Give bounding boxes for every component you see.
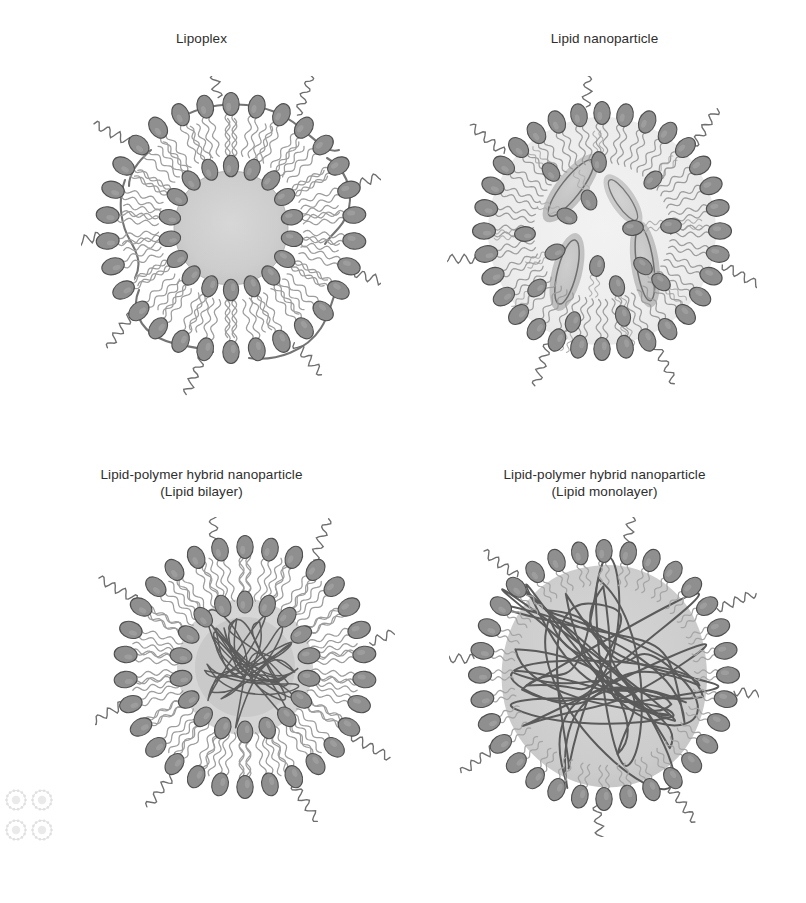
lipid-head [113,645,138,664]
lipid-head [125,131,153,159]
thumbnail-head [13,819,16,822]
lipid-head [570,784,591,810]
peg-chain [484,550,518,577]
thumbnail-core [38,796,46,804]
lipid-head [223,155,238,177]
peg-chain [184,356,204,395]
peg-chain [582,76,592,107]
lipid-head [237,591,253,613]
panel-hybrid-monolayer: Lipid-polymer hybrid nanoparticle (Lipid… [403,452,806,852]
thumbnail-head [23,833,26,836]
lipid-head [594,338,610,361]
thumbnail-head [13,838,16,841]
peg-chain [470,124,505,153]
lipid-tail [267,558,282,596]
panel-hybrid-bilayer-graphic [95,517,395,837]
lipid-head [596,788,612,811]
thumbnail-head [24,829,27,832]
thumbnail-head [43,789,46,792]
lipid-tail [287,154,318,182]
lipid-head [335,178,362,201]
peg-chain [106,313,132,348]
lipid-head [145,114,172,142]
lipid-tail [303,230,345,237]
lipid-head [476,710,504,734]
thumbnail-head [9,806,12,809]
lipid-head [161,750,188,778]
lipid-tail [144,274,175,302]
lipid-head [168,101,192,129]
peg-chain [352,736,391,760]
lipid-head [127,714,155,740]
lipid-tail [141,630,183,644]
lipid-head [618,541,639,567]
thumbnail-head [9,791,12,794]
peg-chain [94,121,131,143]
thumbnail-head [35,806,38,809]
panel-hybrid-bilayer-title-line-1: Lipid-polymer hybrid nanoparticle [0,466,403,483]
peg-chain [370,625,395,645]
thumbnail-core [38,826,46,834]
lipid-head [522,764,548,792]
lipid-tail [274,285,299,314]
panel-hybrid-monolayer-title-line-2: (Lipid monolayer) [403,483,806,500]
thumbnail-head [23,803,26,806]
thumbnail-head [17,808,20,811]
thumbnail-head [50,829,53,832]
thumbnail-previews [2,786,58,848]
peg-chain [693,109,719,146]
thumbnail-head [49,795,52,798]
lipid-tail [165,591,198,620]
thumbnail-head [17,819,20,822]
lipid-tail [297,596,330,625]
lipid-head [246,94,267,120]
peg-chain [146,772,175,807]
peg-chain [99,576,137,601]
lipid-head [342,232,367,251]
panel-hybrid-bilayer-title: Lipid-polymer hybrid nanoparticle (Lipid… [0,466,403,500]
peg-chain [449,654,474,663]
lipid-head [269,327,293,355]
lipid-head [110,153,138,179]
thumbnail-head [23,795,26,798]
lipid-head [161,556,188,584]
panel-lipoplex-title-line-1: Lipoplex [0,30,403,47]
lipid-head [352,645,377,664]
thumbnail-head [21,836,24,839]
lipid-head [473,223,496,239]
panel-hybrid-monolayer-title-line-1: Lipid-polymer hybrid nanoparticle [403,466,806,483]
thumbnail-head [23,825,26,828]
lipid-head [678,573,706,601]
lipid-head [195,94,216,120]
lipid-tail [301,195,341,209]
figure-caption-strip [0,877,806,903]
lipid-tail [307,690,349,704]
thumbnail-head [6,833,9,836]
lipid-head [470,689,496,710]
panel-lipid-nanoparticle-graphic [447,76,757,396]
thumbnail-head [6,803,9,806]
thumbnail-head [35,791,38,794]
peg-chain [313,519,331,560]
lipid-head [705,616,733,640]
peg-chain [532,344,549,386]
peg-chain [291,784,317,821]
peg-chain [208,76,222,98]
thumbnail-head [31,799,34,802]
panel-hybrid-monolayer-title: Lipid-polymer hybrid nanoparticle (Lipid… [403,466,806,500]
lipid-head [693,731,721,757]
lipid-head [237,776,253,799]
lipid-head [282,763,306,791]
thumbnail-head [35,821,38,824]
lipid-tail [163,142,188,171]
lipid-tail [161,596,194,625]
thumbnail-head [47,836,50,839]
lipid-tail [121,247,161,261]
peg-chain [460,745,494,773]
thumbnail-head [43,819,46,822]
thumbnail-head [6,795,9,798]
peg-chain [354,271,381,287]
thumbnail-core [12,796,20,804]
peg-chain [668,788,695,822]
thumbnail-head [35,836,38,839]
